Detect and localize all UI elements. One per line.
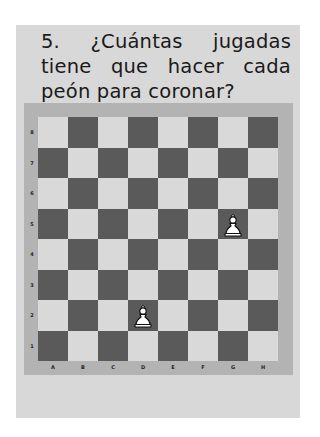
square-f7 <box>188 148 218 179</box>
square-d4 <box>128 239 158 270</box>
square-e4 <box>158 239 188 270</box>
square-c2 <box>98 300 128 331</box>
square-g4 <box>218 239 248 270</box>
square-g2 <box>218 300 248 331</box>
square-c7 <box>98 148 128 179</box>
square-h4 <box>248 239 278 270</box>
white-pawn-icon <box>131 303 155 328</box>
square-d6 <box>128 178 158 209</box>
square-a8 <box>38 117 68 148</box>
square-f4 <box>188 239 218 270</box>
square-f8 <box>188 117 218 148</box>
square-d3 <box>128 270 158 301</box>
white-pawn-icon <box>221 212 245 237</box>
square-f3 <box>188 270 218 301</box>
square-a3 <box>38 270 68 301</box>
square-e3 <box>158 270 188 301</box>
file-label-c: C <box>98 364 128 370</box>
square-b8 <box>68 117 98 148</box>
square-h8 <box>248 117 278 148</box>
square-e6 <box>158 178 188 209</box>
square-d7 <box>128 148 158 179</box>
rank-label-8: 8 <box>28 129 36 135</box>
square-e7 <box>158 148 188 179</box>
question-text: 5. ¿Cuántas jugadas tiene que hacer cada… <box>41 29 291 104</box>
square-d5 <box>128 209 158 240</box>
square-a6 <box>38 178 68 209</box>
square-b6 <box>68 178 98 209</box>
file-label-f: F <box>188 364 218 370</box>
rank-label-1: 1 <box>28 343 36 349</box>
square-c4 <box>98 239 128 270</box>
rank-label-7: 7 <box>28 160 36 166</box>
file-label-h: H <box>248 364 278 370</box>
square-a4 <box>38 239 68 270</box>
square-f6 <box>188 178 218 209</box>
square-b1 <box>68 331 98 362</box>
square-e2 <box>158 300 188 331</box>
square-b2 <box>68 300 98 331</box>
file-label-d: D <box>128 364 158 370</box>
rank-label-2: 2 <box>28 312 36 318</box>
square-g7 <box>218 148 248 179</box>
square-g8 <box>218 117 248 148</box>
rank-label-4: 4 <box>28 251 36 257</box>
rank-label-5: 5 <box>28 221 36 227</box>
square-e1 <box>158 331 188 362</box>
square-b4 <box>68 239 98 270</box>
square-g1 <box>218 331 248 362</box>
square-a5 <box>38 209 68 240</box>
square-h2 <box>248 300 278 331</box>
square-h3 <box>248 270 278 301</box>
square-h1 <box>248 331 278 362</box>
square-c8 <box>98 117 128 148</box>
square-b3 <box>68 270 98 301</box>
square-a1 <box>38 331 68 362</box>
square-a7 <box>38 148 68 179</box>
square-d1 <box>128 331 158 362</box>
rank-label-6: 6 <box>28 190 36 196</box>
square-g6 <box>218 178 248 209</box>
file-label-g: G <box>218 364 248 370</box>
square-c6 <box>98 178 128 209</box>
file-label-a: A <box>38 364 68 370</box>
square-g3 <box>218 270 248 301</box>
square-f5 <box>188 209 218 240</box>
square-a2 <box>38 300 68 331</box>
square-c1 <box>98 331 128 362</box>
file-label-b: B <box>68 364 98 370</box>
square-c5 <box>98 209 128 240</box>
file-label-e: E <box>158 364 188 370</box>
square-g5 <box>218 209 248 240</box>
rank-label-3: 3 <box>28 282 36 288</box>
square-d2 <box>128 300 158 331</box>
square-h5 <box>248 209 278 240</box>
square-f2 <box>188 300 218 331</box>
square-h6 <box>248 178 278 209</box>
square-e5 <box>158 209 188 240</box>
square-d8 <box>128 117 158 148</box>
square-b7 <box>68 148 98 179</box>
square-h7 <box>248 148 278 179</box>
square-b5 <box>68 209 98 240</box>
square-f1 <box>188 331 218 362</box>
chessboard <box>38 117 278 361</box>
square-e8 <box>158 117 188 148</box>
square-c3 <box>98 270 128 301</box>
